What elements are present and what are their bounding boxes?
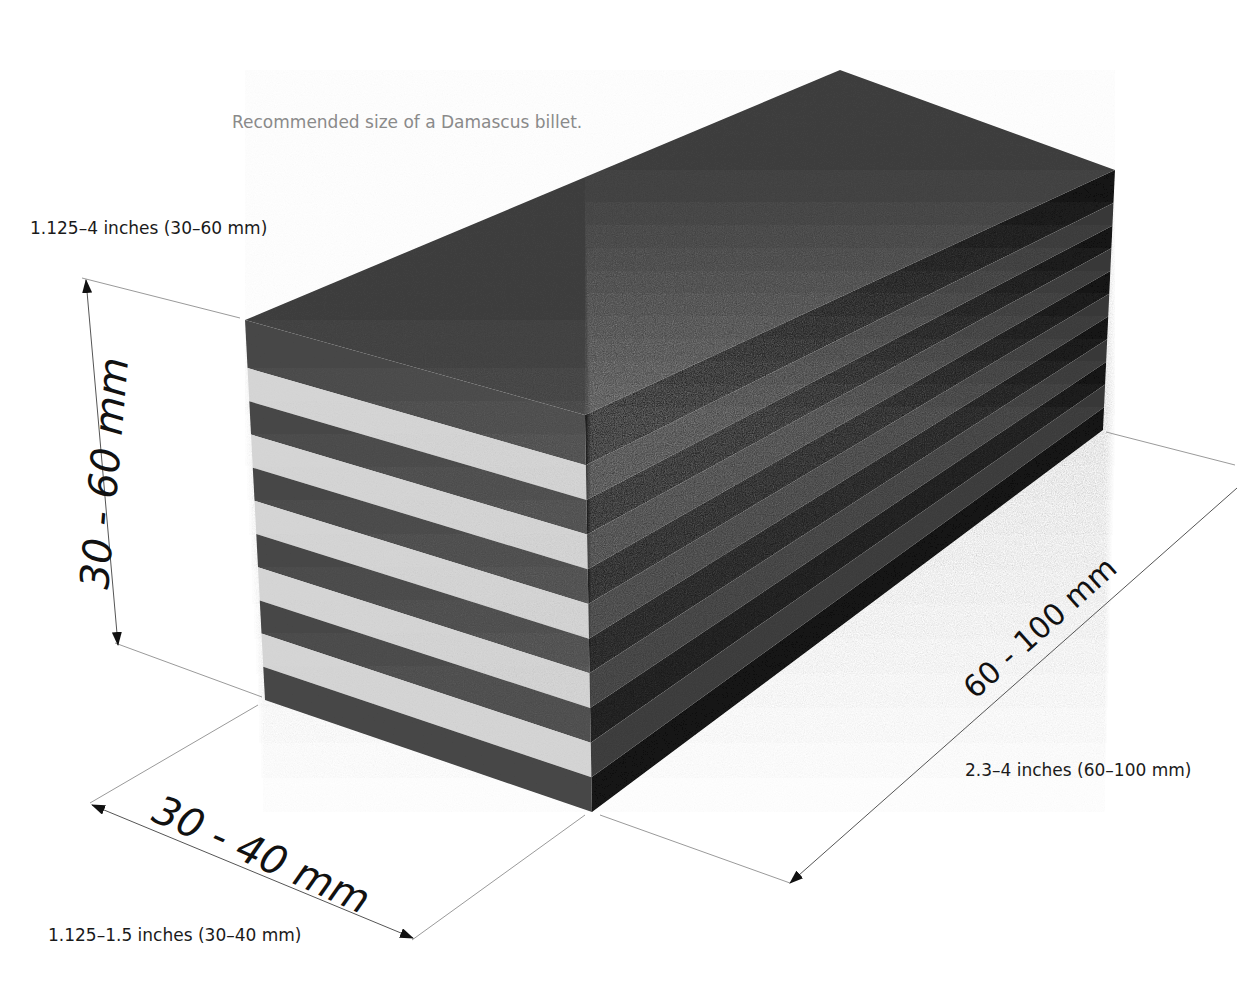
billet-illustration: 30 - 60 mm 30 - 40 mm 60 - 100 mm — [0, 0, 1248, 1003]
length-metric-label: 60 - 100 mm — [956, 550, 1123, 705]
length-imperial-label: 2.3–4 inches (60–100 mm) — [965, 760, 1191, 780]
width-imperial-label: 1.125–1.5 inches (30–40 mm) — [48, 925, 302, 945]
height-imperial-label: 1.125–4 inches (30–60 mm) — [30, 218, 267, 238]
billet-diagram: 30 - 60 mm 30 - 40 mm 60 - 100 mm Recomm… — [0, 0, 1248, 1003]
figure-title: Recommended size of a Damascus billet. — [232, 112, 582, 132]
height-metric-label: 30 - 60 mm — [71, 355, 137, 590]
width-metric-label: 30 - 40 mm — [146, 786, 377, 923]
